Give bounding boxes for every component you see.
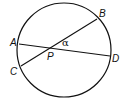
label-p: P (47, 51, 54, 62)
label-d: D (112, 53, 119, 64)
label-a: A (9, 37, 17, 48)
angle-alpha-label: α (62, 37, 69, 48)
chord-cb (21, 19, 97, 66)
label-c: C (10, 66, 18, 77)
circle-chords-diagram: A B C D P α (0, 0, 128, 102)
label-b: B (99, 8, 106, 19)
